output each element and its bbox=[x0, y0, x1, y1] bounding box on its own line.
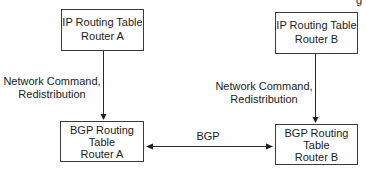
bgp-routing-table-router-b-node: BGP Routing Table Router B bbox=[276, 125, 358, 165]
ip-routing-table-router-a-line2: Router A bbox=[81, 30, 124, 42]
ip-routing-table-router-a-line1: IP Routing Table bbox=[62, 16, 142, 28]
bgp-routing-table-router-b-line3: Router B bbox=[295, 151, 338, 163]
bgp-routing-table-router-b-line1: BGP Routing bbox=[284, 127, 348, 139]
edge-label-a-line1: Network Command, bbox=[3, 75, 100, 87]
bgp-routing-table-router-a-node: BGP Routing Table Router A bbox=[61, 122, 144, 162]
ip-routing-table-router-b-line2: Router B bbox=[295, 33, 338, 45]
arrow-head-left bbox=[146, 144, 153, 150]
bgp-routing-table-router-a-line1: BGP Routing bbox=[70, 124, 134, 136]
bgp-edge-label: BGP bbox=[196, 130, 219, 142]
bgp-routing-table-router-a-line3: Router A bbox=[81, 148, 124, 160]
network-command-arrow-router-b: Network Command, Redistribution bbox=[215, 54, 318, 124]
bgp-routing-table-router-b-line2: Table bbox=[303, 139, 329, 151]
ip-routing-table-router-b-node: IP Routing Table Router B bbox=[276, 13, 358, 54]
edge-label-a-line2: Redistribution bbox=[18, 88, 85, 100]
edge-label-b-line1: Network Command, bbox=[215, 80, 312, 92]
arrow-head-right bbox=[266, 144, 273, 150]
arrow-head-down-a bbox=[101, 114, 107, 120]
arrow-head-down-b bbox=[313, 117, 319, 123]
diagram-svg: g IP Routing Table Router A IP Routing T… bbox=[0, 0, 366, 172]
corner-text-fragment: g bbox=[356, 0, 362, 6]
edge-label-b-line2: Redistribution bbox=[230, 93, 297, 105]
bgp-peering-arrow: BGP bbox=[146, 130, 273, 150]
ip-routing-table-router-a-node: IP Routing Table Router A bbox=[62, 10, 144, 51]
bgp-routing-table-router-a-line2: Table bbox=[89, 136, 115, 148]
network-command-arrow-router-a: Network Command, Redistribution bbox=[3, 51, 106, 121]
bgp-routing-diagram: g IP Routing Table Router A IP Routing T… bbox=[0, 0, 366, 172]
ip-routing-table-router-b-line1: IP Routing Table bbox=[276, 19, 356, 31]
